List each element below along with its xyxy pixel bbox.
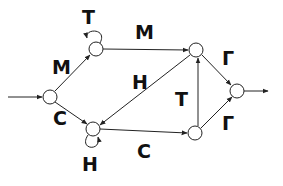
node-bottom-right: [188, 126, 202, 140]
label-top-right-to-bottom-left: Н: [132, 71, 148, 93]
node-bottom-left: [86, 122, 100, 136]
label-bottom-left-to-bottom-right: С: [137, 140, 151, 162]
edge-top-left-to-top-right: [103, 49, 188, 50]
loop-bottom-left: [86, 135, 99, 147]
label-top-right-to-far-right: Г: [222, 47, 234, 69]
edge-bottom-left-to-bottom-right: [100, 129, 187, 133]
label-entry-to-bottom-left: С: [53, 107, 67, 129]
loop-top-left: [87, 31, 102, 43]
label-loop-bottom-left: Н: [82, 153, 98, 175]
node-top-right: [189, 43, 203, 57]
node-top-left: [89, 42, 103, 56]
node-entry: [43, 90, 57, 104]
label-top-left-to-top-right: М: [135, 21, 154, 43]
label-bottom-right-to-top-right: Т: [175, 88, 188, 110]
label-loop-top-left: Т: [82, 6, 95, 28]
node-far-right: [230, 84, 244, 98]
label-entry-to-top-left: М: [52, 56, 71, 78]
state-diagram: Т М М Н Т Г Г С С Н: [0, 0, 283, 186]
label-bottom-right-to-far-right: Г: [222, 112, 234, 134]
